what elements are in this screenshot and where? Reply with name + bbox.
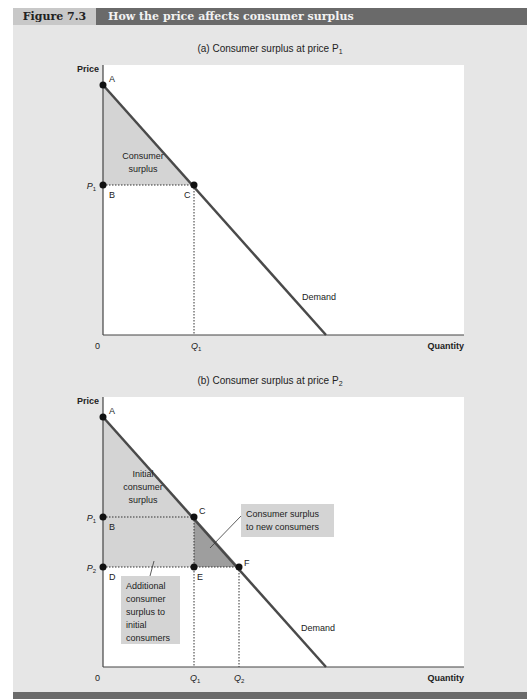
point-b-label: B: [109, 190, 115, 200]
additional-label-2: consumer: [126, 594, 166, 604]
qty-q1-label: Q1: [190, 673, 201, 684]
qty-q2-label: Q2: [234, 673, 245, 684]
price-p2-label: P2: [87, 563, 97, 574]
additional-label-4: initial: [126, 620, 147, 630]
panel-a: (a) Consumer surplus at price P1 Price A…: [77, 43, 464, 352]
additional-label-1: Additional: [126, 581, 166, 591]
initial-cs-label-1: Initial: [132, 469, 153, 479]
point-b-label: B: [109, 522, 115, 532]
point-b: [100, 182, 107, 189]
point-a: [100, 82, 107, 89]
x-axis-label: Quantity: [427, 341, 464, 351]
demand-label: Demand: [302, 292, 336, 302]
price-p1-label: P1: [87, 513, 97, 524]
point-c: [191, 514, 198, 521]
consumer-surplus-label-2: surplus: [128, 164, 158, 174]
panel-a-title: (a) Consumer surplus at price P1: [197, 43, 342, 55]
y-axis-label: Price: [77, 64, 99, 74]
consumer-surplus-label-1: Consumer: [122, 151, 164, 161]
point-d: [100, 564, 107, 571]
qty-q1-label: Q1: [191, 341, 202, 352]
point-a-label: A: [109, 74, 115, 84]
point-b: [100, 514, 107, 521]
point-a: [100, 414, 107, 421]
point-f: [236, 564, 243, 571]
point-c-label: C: [184, 190, 191, 200]
origin-label: 0: [95, 341, 100, 351]
point-d-label: D: [109, 572, 116, 582]
price-p1-label: P1: [87, 181, 97, 192]
point-c-label: C: [199, 506, 206, 516]
additional-label-5: consumers: [126, 633, 171, 643]
additional-label-3: surplus to: [126, 607, 165, 617]
origin-label: 0: [95, 673, 100, 683]
x-axis-label: Quantity: [427, 673, 464, 683]
diagram-canvas: (a) Consumer surplus at price P1 Price A…: [0, 0, 531, 699]
demand-label: Demand: [301, 623, 335, 633]
panel-a-plot-area: [103, 65, 464, 335]
panel-b-title: (b) Consumer surplus at price P2: [197, 375, 342, 387]
new-consumers-label-2: to new consumers: [246, 522, 320, 532]
point-e-label: E: [197, 572, 203, 582]
new-consumers-label-1: Consumer surplus: [246, 509, 320, 519]
y-axis-label: Price: [77, 396, 99, 406]
point-a-label: A: [109, 406, 115, 416]
point-e: [191, 564, 198, 571]
initial-cs-label-3: surplus: [128, 495, 158, 505]
point-c: [191, 182, 198, 189]
initial-cs-label-2: consumer: [123, 482, 163, 492]
point-f-label: F: [244, 558, 250, 568]
panel-b: (b) Consumer surplus at price P2 Consume…: [77, 375, 464, 684]
